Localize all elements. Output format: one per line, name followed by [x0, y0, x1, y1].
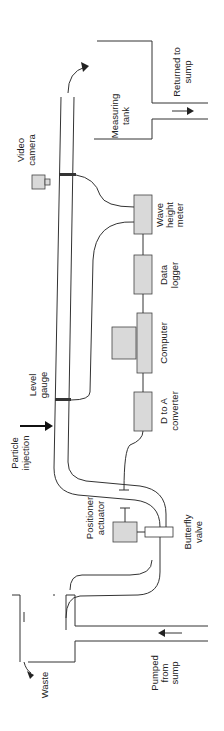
- label-data-logger: Datalogger: [158, 262, 180, 288]
- diagram-canvas: Measuringtank Returned tosump Videocamer…: [0, 0, 224, 731]
- wire-converter-to-actuator: [124, 431, 143, 490]
- video-sensor-ring: [59, 173, 76, 176]
- butterfly-valve: [145, 527, 173, 537]
- label-computer: Computer: [158, 322, 169, 364]
- wave-height-meter: [134, 195, 152, 234]
- data-logger: [134, 255, 152, 294]
- video-camera: [32, 175, 45, 189]
- label-measuring-tank: Measuringtank: [109, 94, 131, 138]
- label-video-camera: Videocamera: [15, 133, 37, 165]
- inlet-tank: [12, 594, 208, 662]
- level-gauge-ring: [55, 398, 71, 401]
- outflow-curve-arrow: [68, 67, 85, 93]
- injection-arrow-head: [45, 421, 53, 431]
- label-d-to-a-converter: D to Aconverter: [158, 391, 180, 431]
- outflow-arrow-head: [81, 62, 89, 72]
- wire-sensor-to-meter: [76, 175, 134, 207]
- positioner-actuator: [113, 522, 137, 542]
- label-particle-injection: Particleinjection: [9, 436, 31, 471]
- label-butterfly-valve: Butterflyvalve: [182, 514, 204, 549]
- pipe-s-inner: [70, 560, 152, 590]
- d-to-a-converter: [134, 392, 152, 431]
- label-pumped-from-sump: Pumpedfromsump: [149, 655, 180, 690]
- camera-lens: [45, 179, 50, 185]
- computer: [137, 313, 152, 373]
- computer-monitor: [112, 327, 136, 359]
- label-wave-height-meter: Waveheightmeter: [154, 202, 185, 228]
- label-level-gauge: Levelgauge: [27, 372, 49, 398]
- label-returned-to-sump: Returned tosump: [171, 47, 193, 97]
- label-positioner-actuator: Positioneractuator: [84, 497, 106, 539]
- return-arrow-head: [187, 107, 194, 115]
- rig-diagram: Measuringtank Returned tosump Videocamer…: [0, 0, 224, 731]
- wire-gauge-to-meter: [71, 222, 134, 400]
- label-waste: Waste: [39, 672, 50, 699]
- inflow-arrow-head: [158, 629, 165, 637]
